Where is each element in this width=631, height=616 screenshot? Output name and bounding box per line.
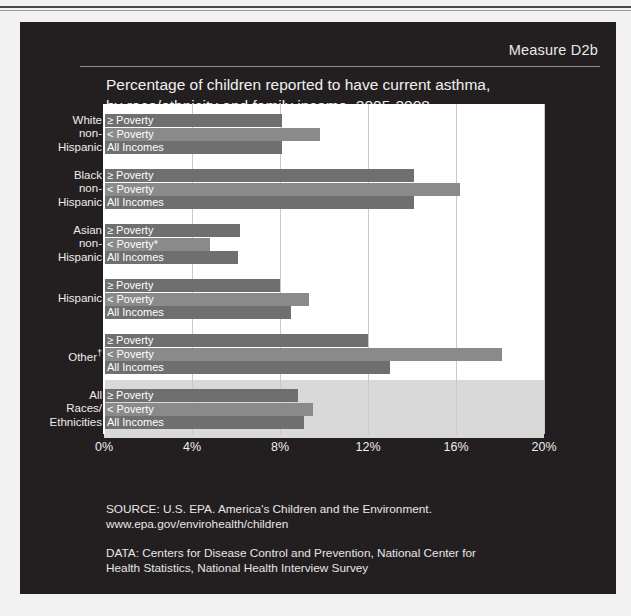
category-label: AllRaces/Ethnicities bbox=[20, 389, 102, 430]
bar-group: ≥ Poverty< PovertyAll Incomes bbox=[104, 169, 544, 209]
category-label-line: non- bbox=[20, 182, 102, 196]
bar-series-label: All Incomes bbox=[107, 141, 164, 154]
bar-series-label: ≥ Poverty bbox=[107, 224, 153, 237]
bar-series-label: All Incomes bbox=[107, 251, 164, 264]
page-top-rule bbox=[0, 6, 631, 8]
bar-series-label: All Incomes bbox=[107, 416, 164, 429]
source-note: SOURCE: U.S. EPA. America's Children and… bbox=[106, 502, 576, 532]
bar-series-label: < Poverty bbox=[107, 293, 154, 306]
category-label-line: Ethnicities bbox=[20, 416, 102, 430]
data-line-2: Health Statistics, National Health Inter… bbox=[106, 561, 576, 576]
category-label-line: Hispanic bbox=[20, 196, 102, 210]
category-label: Hispanic bbox=[20, 292, 102, 306]
bar bbox=[104, 183, 460, 196]
page-root: Measure D2b Percentage of children repor… bbox=[0, 0, 631, 616]
category-label-line: Other† bbox=[20, 347, 102, 364]
category-label-line: Hispanic bbox=[20, 251, 102, 265]
bar-series-label: All Incomes bbox=[107, 196, 164, 209]
bar-series-label: < Poverty* bbox=[107, 238, 158, 251]
gridline-20 bbox=[544, 104, 545, 434]
bar-series-label: < Poverty bbox=[107, 128, 154, 141]
bar-series-label: All Incomes bbox=[107, 306, 164, 319]
title-line-1: Percentage of children reported to have … bbox=[106, 74, 576, 95]
y-axis-line bbox=[103, 104, 105, 434]
category-label-line: Asian bbox=[20, 224, 102, 238]
bar-group: ≥ Poverty< PovertyAll Incomes bbox=[104, 389, 544, 429]
category-label: Whitenon-Hispanic bbox=[20, 114, 102, 155]
category-label: Other† bbox=[20, 347, 102, 364]
category-label-line: non- bbox=[20, 237, 102, 251]
category-label-line: Races/ bbox=[20, 402, 102, 416]
bar-group: ≥ Poverty< PovertyAll Incomes bbox=[104, 114, 544, 154]
bar-series-label: < Poverty bbox=[107, 183, 154, 196]
data-note: DATA: Centers for Disease Control and Pr… bbox=[106, 546, 576, 576]
x-tick-label: 12% bbox=[355, 440, 380, 454]
category-label-line: Hispanic bbox=[20, 141, 102, 155]
category-label-line: Hispanic bbox=[20, 292, 102, 306]
bar-series-label: ≥ Poverty bbox=[107, 334, 153, 347]
bar bbox=[104, 348, 502, 361]
bar-series-label: All Incomes bbox=[107, 361, 164, 374]
category-label: Asiannon-Hispanic bbox=[20, 224, 102, 265]
x-axis: 0%4%8%12%16%20% bbox=[104, 436, 544, 458]
category-label-line: White bbox=[20, 114, 102, 128]
bar-group: ≥ Poverty< PovertyAll Incomes bbox=[104, 334, 544, 374]
source-line-2: www.epa.gov/envirohealth/children bbox=[106, 517, 576, 532]
category-label: Blacknon-Hispanic bbox=[20, 169, 102, 210]
bar-series-label: ≥ Poverty bbox=[107, 114, 153, 127]
bar-series-label: < Poverty bbox=[107, 403, 154, 416]
data-line-1: DATA: Centers for Disease Control and Pr… bbox=[106, 546, 576, 561]
bar-series-label: ≥ Poverty bbox=[107, 389, 153, 402]
category-label-line: non- bbox=[20, 127, 102, 141]
source-line-1: SOURCE: U.S. EPA. America's Children and… bbox=[106, 502, 576, 517]
measure-label: Measure D2b bbox=[509, 42, 598, 58]
x-tick-label: 4% bbox=[183, 440, 201, 454]
category-label-line: Black bbox=[20, 169, 102, 183]
x-tick-label: 20% bbox=[531, 440, 556, 454]
measure-divider bbox=[80, 66, 600, 67]
page-top-rule-secondary bbox=[0, 10, 631, 11]
category-label-line: All bbox=[20, 389, 102, 403]
bar-group: ≥ Poverty< Poverty*All Incomes bbox=[104, 224, 544, 264]
x-tick-label: 0% bbox=[95, 440, 113, 454]
chart-plot-area: ≥ Poverty< PovertyAll Incomes≥ Poverty< … bbox=[104, 104, 544, 434]
bar-series-label: ≥ Poverty bbox=[107, 279, 153, 292]
x-tick-label: 8% bbox=[271, 440, 289, 454]
bar-series-label: ≥ Poverty bbox=[107, 169, 153, 182]
plot-background: ≥ Poverty< PovertyAll Incomes≥ Poverty< … bbox=[104, 104, 544, 434]
x-tick-label: 16% bbox=[443, 440, 468, 454]
category-axis: Whitenon-HispanicBlacknon-HispanicAsiann… bbox=[20, 104, 102, 434]
bar-series-label: < Poverty bbox=[107, 348, 154, 361]
bar-group: ≥ Poverty< PovertyAll Incomes bbox=[104, 279, 544, 319]
